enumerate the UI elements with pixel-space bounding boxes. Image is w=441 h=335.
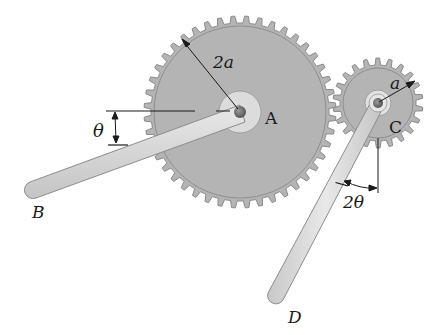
gear-diagram: 2a a A C B D θ 2θ	[0, 0, 441, 335]
arrowhead-icon	[113, 136, 119, 143]
label-2a: 2a	[212, 52, 234, 72]
pin-a	[234, 106, 246, 118]
pin-c	[373, 98, 383, 108]
label-2theta: 2θ	[342, 192, 364, 212]
arrowhead-icon	[369, 185, 377, 191]
label-B: B	[31, 202, 45, 222]
arrowhead-icon	[112, 112, 118, 119]
label-D: D	[287, 307, 302, 327]
label-a: a	[390, 73, 400, 93]
label-A: A	[264, 108, 278, 128]
label-theta: θ	[93, 120, 104, 141]
label-C: C	[389, 117, 402, 137]
